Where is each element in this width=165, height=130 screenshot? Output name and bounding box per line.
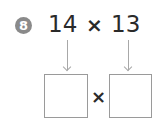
problem-number-badge: 8 — [15, 17, 32, 34]
answer-box-2[interactable] — [109, 74, 152, 118]
down-arrow-icon — [128, 40, 129, 70]
answer-box-1[interactable] — [44, 74, 88, 118]
factor-2: 13 — [111, 11, 140, 37]
multiply-sign-bottom: × — [91, 86, 106, 107]
multiply-sign-top: × — [86, 13, 103, 37]
factor-1: 14 — [48, 11, 77, 37]
down-arrow-icon — [67, 40, 68, 70]
